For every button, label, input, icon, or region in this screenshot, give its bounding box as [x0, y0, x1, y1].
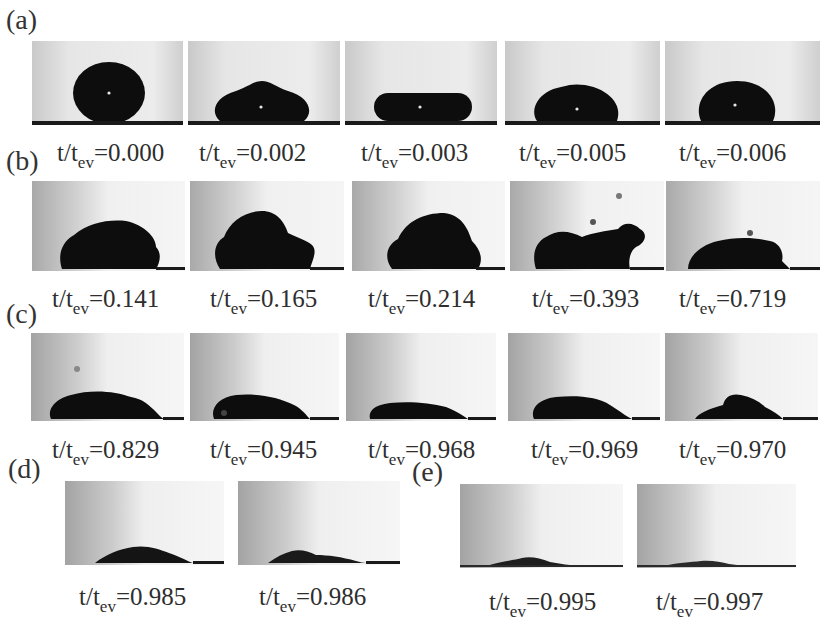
caption-c2: t/tev=0.945: [210, 437, 317, 465]
caption-b3: t/tev=0.214: [368, 286, 475, 314]
droplet-image: [32, 181, 185, 271]
frame-b1: [32, 181, 185, 271]
frame-a4: [505, 41, 660, 125]
droplet-image: [238, 481, 400, 565]
caption-a1: t/tev=0.000: [57, 140, 164, 168]
frame-b5: [666, 181, 820, 271]
frame-b2: [190, 181, 344, 271]
frame-e1: [460, 484, 623, 568]
caption-b4: t/tev=0.393: [532, 286, 639, 314]
droplet-image: [665, 333, 818, 421]
caption-b5: t/tev=0.719: [679, 286, 786, 314]
caption-c4: t/tev=0.969: [531, 437, 638, 465]
caption-e1: t/tev=0.995: [489, 589, 596, 617]
frame-c4: [508, 333, 660, 421]
caption-a2: t/tev=0.002: [199, 140, 306, 168]
droplet-image: [345, 41, 497, 125]
caption-c5: t/tev=0.970: [679, 437, 786, 465]
caption-a4: t/tev=0.005: [519, 140, 626, 168]
panel-label-a: (a): [6, 6, 37, 34]
frame-c3: [346, 333, 496, 421]
caption-b1: t/tev=0.141: [52, 286, 159, 314]
frame-d1: [65, 481, 224, 565]
frame-c5: [665, 333, 818, 421]
droplet-image: [190, 333, 339, 421]
panel-label-c: (c): [6, 300, 37, 328]
droplet-image: [32, 41, 183, 125]
caption-b2: t/tev=0.165: [210, 286, 317, 314]
droplet-image: [508, 333, 660, 421]
droplet-image: [190, 181, 344, 271]
caption-c1: t/tev=0.829: [52, 437, 159, 465]
caption-a5: t/tev=0.006: [679, 140, 786, 168]
caption-d1: t/tev=0.985: [79, 584, 186, 612]
droplet-image: [665, 41, 820, 125]
droplet-image: [31, 333, 184, 421]
frame-a5: [665, 41, 820, 125]
droplet-image: [188, 41, 340, 125]
droplet-image: [346, 333, 496, 421]
panel-label-b: (b): [6, 147, 39, 175]
droplet-image: [637, 484, 796, 568]
droplet-image: [352, 181, 505, 271]
droplet-image: [666, 181, 820, 271]
frame-d2: [238, 481, 400, 565]
caption-a3: t/tev=0.003: [361, 140, 468, 168]
frame-b3: [352, 181, 505, 271]
frame-e2: [637, 484, 796, 568]
droplet-image: [510, 181, 664, 271]
frame-b4: [510, 181, 664, 271]
panel-label-d: (d): [8, 455, 41, 483]
caption-e2: t/tev=0.997: [656, 589, 763, 617]
droplet-image: [65, 481, 224, 565]
frame-c1: [31, 333, 184, 421]
frame-a2: [188, 41, 340, 125]
droplet-image: [460, 484, 623, 568]
caption-c3: t/tev=0.968: [368, 437, 475, 465]
frame-a1: [32, 41, 183, 125]
droplet-image: [505, 41, 660, 125]
frame-c2: [190, 333, 339, 421]
frame-a3: [345, 41, 497, 125]
caption-d2: t/tev=0.986: [259, 584, 366, 612]
